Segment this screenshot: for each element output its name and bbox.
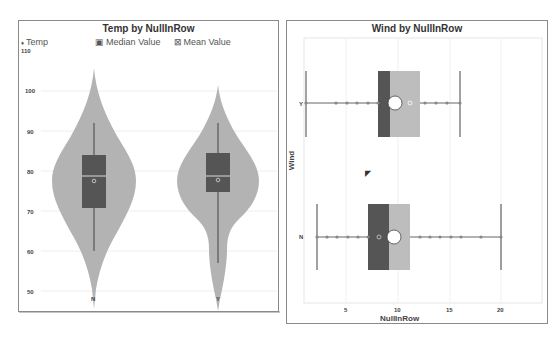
x-tick-n: N: [91, 296, 95, 302]
mean-marker-wind-y: [388, 96, 402, 110]
wind-box-plot: [287, 21, 549, 325]
wind-chart-panel: Wind by NullInRow Wind Y N: [286, 20, 548, 324]
box-n-lower: [368, 204, 389, 270]
x-tick-5: 5: [344, 307, 347, 313]
temp-chart-panel: Temp by NullInRow ♦Temp ▣Median Value ⊠M…: [18, 20, 279, 312]
x-tick-10: 10: [394, 307, 401, 313]
temp-violin-plot: [19, 21, 280, 313]
wind-x-axis-title: NullInRow: [380, 314, 419, 323]
mean-marker-wind-n: [387, 230, 401, 244]
mouse-cursor-icon: ◤: [365, 169, 371, 178]
x-tick-y: Y: [216, 296, 220, 302]
x-tick-15: 15: [446, 307, 453, 313]
box-n: [82, 155, 106, 208]
box-y: [206, 153, 230, 192]
x-tick-20: 20: [497, 307, 504, 313]
